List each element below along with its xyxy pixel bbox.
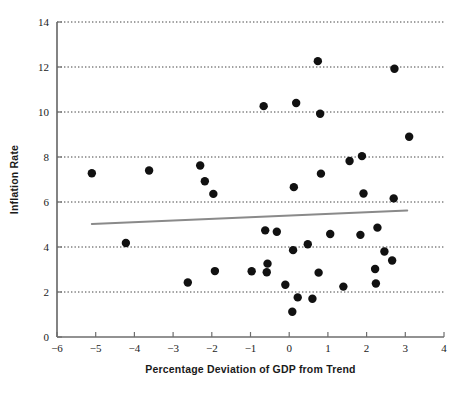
data-point [390, 65, 398, 73]
data-point [373, 223, 381, 231]
data-point [281, 281, 289, 289]
x-tick-label-0: 0 [286, 342, 292, 354]
data-point [209, 190, 217, 198]
data-point [372, 279, 380, 287]
data-point [308, 295, 316, 303]
data-point [294, 293, 302, 301]
scatter-plot-figure: −6−5−4−3−2−101234 02468101214 Percentage… [0, 0, 476, 394]
y-tick-label-14: 14 [38, 16, 50, 28]
data-point [247, 267, 255, 275]
y-tick-label-4: 4 [44, 241, 50, 253]
x-axis-title: Percentage Deviation of GDP from Trend [145, 363, 355, 375]
chart-canvas: −6−5−4−3−2−101234 02468101214 Percentage… [0, 0, 476, 394]
data-point [304, 240, 312, 248]
data-point [292, 99, 300, 107]
data-point [317, 169, 325, 177]
x-tick-label--2: −2 [206, 342, 218, 354]
y-tick-labels-group: 02468101214 [38, 16, 50, 343]
data-point [259, 102, 267, 110]
data-point [289, 246, 297, 254]
data-point [201, 177, 209, 185]
data-point [122, 239, 130, 247]
x-tick-label--1: −1 [245, 342, 257, 354]
data-point [290, 183, 298, 191]
data-point [326, 230, 334, 238]
data-point [211, 267, 219, 275]
trend-line-group [92, 211, 407, 225]
data-point [339, 282, 347, 290]
x-tick-label--5: −5 [90, 342, 102, 354]
data-point [196, 161, 204, 169]
data-point [356, 231, 364, 239]
data-point [389, 194, 397, 202]
x-tick-label-3: 3 [403, 342, 409, 354]
data-point [359, 189, 367, 197]
data-point [261, 226, 269, 234]
y-tick-label-0: 0 [44, 331, 50, 343]
data-point [345, 157, 353, 165]
data-point [405, 133, 413, 141]
data-point [263, 268, 271, 276]
y-tick-label-10: 10 [38, 106, 50, 118]
x-tick-labels-group: −6−5−4−3−2−101234 [51, 342, 447, 354]
data-point [263, 259, 271, 267]
y-tick-label-2: 2 [44, 286, 50, 298]
data-point [314, 57, 322, 65]
tick-marks-group [57, 22, 444, 337]
data-point [316, 110, 324, 118]
data-point [288, 308, 296, 316]
data-point [388, 256, 396, 264]
data-point [371, 265, 379, 273]
y-tick-label-8: 8 [44, 151, 50, 163]
y-tick-label-12: 12 [38, 61, 49, 73]
x-tick-label-4: 4 [441, 342, 447, 354]
data-point [314, 268, 322, 276]
x-tick-label--3: −3 [167, 342, 179, 354]
data-point [273, 228, 281, 236]
data-point [184, 278, 192, 286]
y-tick-label-6: 6 [44, 196, 50, 208]
y-axis-title: Inflation Rate [8, 145, 20, 214]
x-tick-label--4: −4 [129, 342, 141, 354]
x-tick-label--6: −6 [51, 342, 63, 354]
regression-trend-line [92, 211, 407, 225]
axes-group [57, 22, 444, 337]
data-point [145, 166, 153, 174]
x-tick-label-1: 1 [325, 342, 331, 354]
x-tick-label-2: 2 [364, 342, 370, 354]
data-point [358, 152, 366, 160]
data-point [88, 169, 96, 177]
data-points-group [88, 57, 414, 316]
data-point [380, 247, 388, 255]
